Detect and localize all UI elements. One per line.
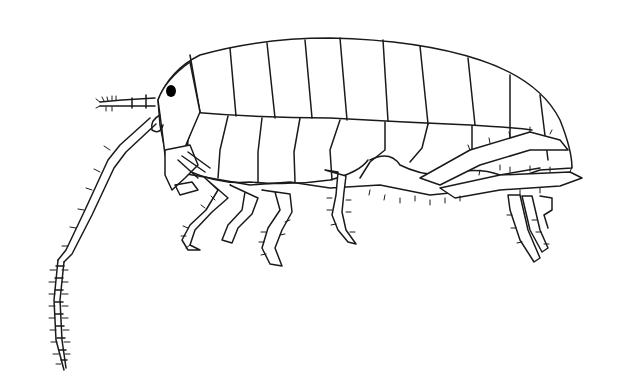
eye-icon	[166, 85, 176, 97]
illustration-canvas	[0, 0, 620, 390]
antenna-short	[96, 95, 155, 111]
amphipod-illustration	[0, 0, 620, 390]
antenna-long	[49, 118, 156, 370]
